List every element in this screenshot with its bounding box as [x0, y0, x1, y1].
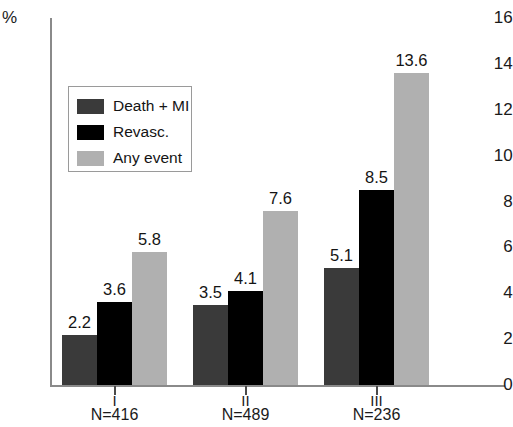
bar-group: 3.54.17.6 [193, 18, 298, 385]
bar-value-label: 5.8 [121, 230, 179, 249]
legend-swatch-revasc [77, 125, 104, 140]
x-group-sample-size: N=489 [176, 406, 316, 424]
bar[interactable]: 2.2 [62, 335, 97, 385]
chart-legend: Death + MI Revasc. Any event [68, 86, 192, 172]
bar[interactable]: 4.1 [228, 291, 263, 385]
x-axis-line [50, 385, 505, 387]
legend-item-revasc: Revasc. [77, 120, 191, 144]
bar[interactable]: 13.6 [394, 73, 429, 385]
bar[interactable]: 7.6 [263, 211, 298, 385]
bar[interactable]: 5.1 [324, 268, 359, 385]
bar[interactable]: 8.5 [359, 190, 394, 385]
bar-chart-figure: % 024681012141616 2.23.65.83.54.17.65.18… [0, 0, 513, 427]
bar[interactable]: 3.5 [193, 305, 228, 385]
y-axis-unit-label: % [2, 8, 17, 28]
legend-swatch-any-event [77, 151, 104, 166]
bar[interactable]: 3.6 [97, 302, 132, 385]
x-group-sample-size: N=416 [45, 406, 185, 424]
legend-label-revasc: Revasc. [113, 123, 169, 141]
legend-label-any-event: Any event [113, 149, 182, 167]
bar-value-label: 13.6 [383, 51, 441, 70]
legend-item-any-event: Any event [77, 146, 191, 170]
plot-area: 2.23.65.83.54.17.65.18.513.6 [50, 18, 505, 385]
bar-value-label: 7.6 [252, 189, 310, 208]
bar[interactable]: 5.8 [132, 252, 167, 385]
legend-label-death-mi: Death + MI [113, 97, 189, 115]
bar-group: 5.18.513.6 [324, 18, 429, 385]
x-group-sample-size: N=236 [307, 406, 447, 424]
legend-item-death-mi: Death + MI [77, 94, 191, 118]
bar-group: 2.23.65.8 [62, 18, 167, 385]
legend-swatch-death-mi [77, 99, 104, 114]
